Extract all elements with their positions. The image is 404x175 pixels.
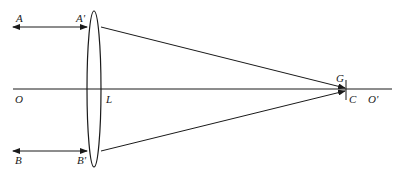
label-l: L — [106, 94, 112, 105]
label-a-prime: A' — [76, 13, 85, 24]
label-g: G — [336, 73, 344, 84]
ray-diagram: A A' B B' O L G C O' — [0, 0, 404, 175]
label-o: O — [15, 94, 23, 105]
label-b: B — [15, 155, 22, 166]
ray-a-refracted — [101, 27, 345, 88]
label-c: C — [349, 94, 356, 105]
label-o-prime: O' — [368, 94, 378, 105]
label-a: A — [16, 13, 23, 24]
ray-b-refracted — [101, 91, 345, 151]
ray-diagram-canvas — [0, 0, 404, 175]
label-b-prime: B' — [77, 155, 86, 166]
